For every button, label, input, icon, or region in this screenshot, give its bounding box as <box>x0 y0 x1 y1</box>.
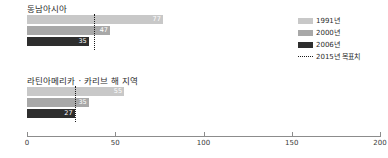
legend-label: 2006년 <box>316 40 340 51</box>
legend-dotted-line-icon <box>298 56 313 57</box>
axis-tick <box>292 132 293 137</box>
axis-tick <box>204 132 205 137</box>
bar-chart: 동남아시아774735라틴아메리카 · 카리브 해 지역553527 05010… <box>0 0 388 158</box>
axis-tick-label: 200 <box>373 139 386 147</box>
legend-item: 2000년 <box>298 28 382 39</box>
target-line-2015 <box>94 14 95 50</box>
group-title: 동남아시아 <box>27 2 68 14</box>
legend-item: 2006년 <box>298 40 382 51</box>
legend-item: 2015년 목표치 <box>298 52 382 63</box>
chart-legend: 1991년2000년2006년2015년 목표치 <box>298 16 382 64</box>
bar-value-label: 35 <box>27 98 89 107</box>
legend-swatch-icon <box>298 18 313 24</box>
bar-value-label: 27 <box>27 109 75 118</box>
legend-item: 1991년 <box>298 16 382 27</box>
legend-swatch-icon <box>298 42 313 48</box>
axis-tick <box>115 132 116 137</box>
axis-tick-label: 50 <box>111 139 120 147</box>
axis-tick-label: 0 <box>25 139 29 147</box>
x-axis: 050100150200 <box>0 132 388 158</box>
legend-label: 2000년 <box>316 28 340 39</box>
bar-value-label: 47 <box>27 26 110 35</box>
target-line-2015 <box>75 86 76 122</box>
legend-label: 2015년 목표치 <box>316 52 360 63</box>
legend-swatch-icon <box>298 30 313 36</box>
axis-tick <box>380 132 381 137</box>
group-title: 라틴아메리카 · 카리브 해 지역 <box>27 74 138 86</box>
axis-tick-label: 100 <box>197 139 210 147</box>
legend-label: 1991년 <box>316 16 340 27</box>
axis-tick <box>27 132 28 137</box>
axis-tick-label: 150 <box>285 139 298 147</box>
bar-value-label: 35 <box>27 37 89 46</box>
